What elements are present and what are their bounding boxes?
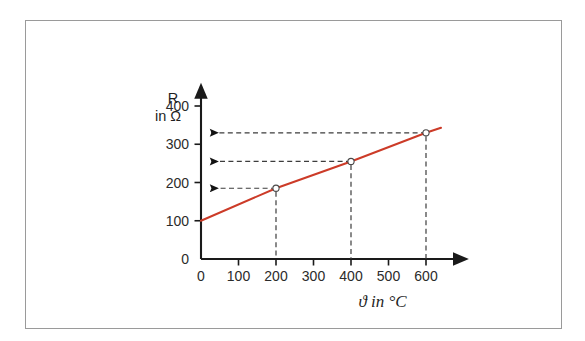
data-point-marker (348, 158, 354, 164)
resistance-line (201, 128, 441, 221)
data-point-marker (273, 185, 279, 191)
x-tick-label: 100 (227, 268, 251, 284)
resistance-temperature-chart: 01002003004000100200300400500600Rin Ωϑ i… (26, 21, 561, 328)
x-tick-label: 500 (377, 268, 401, 284)
y-axis-title-unit: in Ω (155, 108, 181, 124)
y-tick-label: 100 (166, 213, 190, 229)
x-axis-title: ϑ in °C (359, 292, 408, 311)
x-tick-label: 400 (339, 268, 363, 284)
x-tick-label: 0 (197, 268, 205, 284)
y-tick-label: 0 (181, 251, 189, 267)
y-axis-title-quantity: R (168, 90, 178, 106)
figure-root: 01002003004000100200300400500600Rin Ωϑ i… (0, 0, 585, 341)
figure-frame: 01002003004000100200300400500600Rin Ωϑ i… (25, 20, 562, 329)
x-tick-label: 300 (302, 268, 326, 284)
x-tick-label: 200 (264, 268, 288, 284)
y-tick-label: 200 (166, 175, 190, 191)
data-point-marker (423, 130, 429, 136)
x-tick-label: 600 (414, 268, 438, 284)
y-tick-label: 300 (166, 136, 190, 152)
